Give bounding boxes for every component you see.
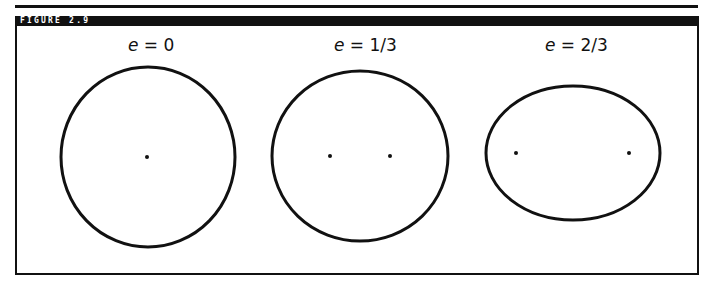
focus-point <box>514 151 518 155</box>
focus-point <box>627 151 631 155</box>
ellipse-2 <box>486 86 660 220</box>
focus-point <box>328 154 332 158</box>
ellipses-diagram <box>0 0 719 281</box>
focus-point <box>145 155 149 159</box>
ellipse-1 <box>272 71 448 241</box>
focus-point <box>388 154 392 158</box>
